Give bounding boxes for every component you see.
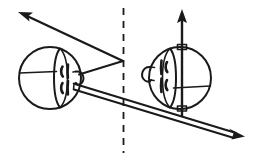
right-head-ear-join-top [151,67,155,68]
right-head-eye-lower-outer [166,80,168,90]
lower-right-arrow [74,84,246,140]
vertical-up-arrow [177,9,187,116]
right-head-outline [149,47,211,109]
figure-canvas: Two spherical head figures facing each o… [0,0,255,162]
left-head-eye-upper-outer [61,67,63,77]
right-head-equator [174,86,211,88]
right-head-face-edge [163,49,171,108]
upper-left-arrow-wedge-leg [79,61,123,75]
lower-right-arrow-shaft-lower [74,90,234,139]
left-head-face-edge [60,49,68,108]
left-head-equator [20,72,57,74]
left-head-outline [19,47,81,109]
left-head-ear-join-top [73,72,76,73]
right-head-eye-upper-outer [166,62,168,72]
right-head-face-meridian [170,49,176,108]
lower-right-arrow-tail-cap [74,84,75,90]
left-head [19,47,83,109]
left-head-eye-lower-outer [61,83,63,93]
lower-right-arrow-shaft-upper [75,84,236,133]
left-head-face-meridian [54,49,60,108]
upper-left-arrow-shaft [27,16,123,61]
right-head-ear-join-bottom [151,80,154,81]
right-head [142,47,211,109]
diagram-svg [0,0,255,162]
upper-left-arrow [18,12,123,75]
